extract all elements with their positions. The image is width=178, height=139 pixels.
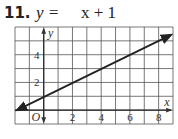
x-tick-label: 4 <box>98 111 104 123</box>
y-tick-label: 4 <box>34 49 40 61</box>
x-axis-label: x <box>163 95 170 109</box>
y-axis-label: y <box>47 26 54 40</box>
graph-line <box>17 35 171 110</box>
x-tick-label: 6 <box>127 111 133 123</box>
x-tick-label: 2 <box>70 111 76 123</box>
y-tick-label: 2 <box>34 76 40 88</box>
origin-label: O <box>31 110 40 124</box>
coordinate-plane: 246824Oyx <box>0 0 178 139</box>
x-tick-label: 8 <box>156 111 162 123</box>
